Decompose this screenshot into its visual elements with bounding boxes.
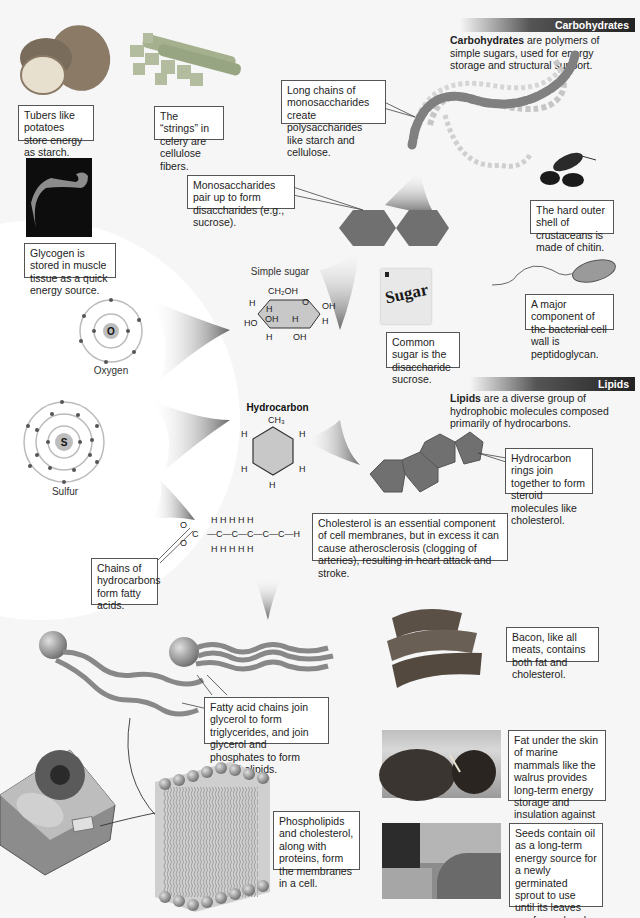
svg-text:H H H H H: H H H H H bbox=[211, 544, 254, 554]
hydrocarbon-title: Hydrocarbon bbox=[240, 402, 315, 413]
caption-walrus: Fat under the skin of marine mammals lik… bbox=[508, 730, 606, 801]
caption-glycogen: Glycogen is stored in muscle tissue as a… bbox=[24, 243, 116, 278]
sulfur-atom-diagram: S bbox=[22, 400, 106, 484]
caption-peptidoglycan: A major component of the bacterial cell … bbox=[525, 294, 614, 330]
bacon-image bbox=[382, 603, 502, 693]
bacterium-image bbox=[492, 255, 617, 290]
caption-sucrose: Common sugar is the disaccharide sucrose… bbox=[386, 332, 460, 368]
caption-tubers: Tubers like potatoes store energy as sta… bbox=[18, 105, 94, 141]
sugar-packet-text: Sugar bbox=[383, 280, 430, 309]
walrus-photo bbox=[382, 730, 501, 798]
svg-text:H: H bbox=[299, 464, 306, 474]
svg-text:H: H bbox=[266, 304, 273, 314]
caption-celery: The “strings” in celery are cellulose fi… bbox=[154, 106, 224, 140]
svg-text:CH₃: CH₃ bbox=[268, 415, 285, 425]
pointer-line-disaccharides bbox=[293, 185, 373, 215]
svg-text:H: H bbox=[292, 314, 299, 324]
caption-fatty-acids: Chains of hydrocarbons form fatty acids. bbox=[91, 558, 158, 605]
seeds-photo bbox=[382, 823, 501, 899]
sugar-packet-photo: Sugar bbox=[381, 269, 431, 324]
svg-text:H: H bbox=[299, 429, 306, 439]
glucose-structure: CH₂OH O OH H H OH H H HO H OH bbox=[240, 284, 350, 364]
caption-chitin: The hard outer shell of crustaceans is m… bbox=[530, 200, 614, 234]
caption-seeds: Seeds contain oil as a long-term energy … bbox=[509, 823, 603, 907]
oxygen-label: Oxygen bbox=[86, 365, 136, 376]
glucose-ring-o: O bbox=[302, 297, 309, 307]
glucose-ch2oh: CH₂OH bbox=[268, 286, 298, 296]
svg-text:OH: OH bbox=[322, 301, 336, 311]
svg-text:H: H bbox=[269, 480, 276, 490]
svg-text:H: H bbox=[322, 316, 329, 326]
toluene-structure: CH₃ HH HH H bbox=[238, 415, 318, 495]
svg-text:H H H H H: H H H H H bbox=[211, 515, 254, 525]
disaccharide-molecule bbox=[339, 210, 449, 246]
flexed-arm-icon bbox=[26, 158, 92, 237]
lipids-intro-term: Lipids bbox=[450, 392, 481, 404]
pointer-line-polysaccharides bbox=[380, 95, 480, 135]
svg-text:H: H bbox=[249, 298, 256, 308]
caption-steroid: Hydrocarbon rings join together to form … bbox=[505, 448, 593, 494]
lipids-header: Lipids bbox=[470, 377, 635, 391]
walrus-icon bbox=[382, 730, 501, 798]
pointer-line-steroid bbox=[478, 448, 508, 468]
svg-text:OH: OH bbox=[265, 314, 279, 324]
svg-text:H: H bbox=[241, 464, 248, 474]
oxygen-atom-diagram: O bbox=[76, 296, 146, 366]
lobster-image bbox=[538, 140, 598, 190]
caption-triglycerides: Fatty acid chains join glycerol to form … bbox=[204, 697, 329, 744]
svg-text:OH: OH bbox=[293, 332, 307, 342]
carbohydrates-header: Carbohydrates bbox=[460, 18, 635, 32]
caption-bacon: Bacon, like all meats, contains both fat… bbox=[506, 627, 599, 662]
caption-membranes: Phospholipids and cholesterol, along wit… bbox=[273, 811, 360, 870]
steroid-molecule bbox=[370, 442, 490, 500]
pointer-line-fatty-acids bbox=[155, 528, 195, 568]
caption-cholesterol: Cholesterol is an essential component of… bbox=[312, 513, 508, 561]
potato-image bbox=[8, 20, 118, 100]
fatty-acid-structure: OO C —C—C—C—C—C—H H H H H H H H H H H bbox=[180, 518, 300, 563]
celery-image bbox=[125, 25, 240, 95]
carbohydrates-intro-term: Carbohydrates bbox=[450, 34, 524, 46]
caption-polysaccharides: Long chains of monosaccharides create po… bbox=[281, 80, 386, 124]
svg-text:H: H bbox=[266, 332, 273, 342]
membrane-bilayer-illustration bbox=[155, 762, 270, 912]
svg-text:HO: HO bbox=[244, 318, 258, 328]
sulfur-label: Sulfur bbox=[40, 486, 90, 497]
muscle-photo bbox=[26, 158, 92, 237]
sulfur-symbol: S bbox=[61, 437, 68, 448]
oxygen-symbol: O bbox=[107, 326, 115, 337]
svg-text:H: H bbox=[241, 429, 248, 439]
lipids-intro: Lipids are a diverse group of hydrophobi… bbox=[450, 392, 620, 430]
caption-disaccharides: Monosaccharides pair up to form disaccha… bbox=[187, 175, 295, 209]
simple-sugar-title: Simple sugar bbox=[240, 266, 320, 277]
svg-text:—C—C—C—C—C—H: —C—C—C—C—C—H bbox=[207, 529, 300, 539]
